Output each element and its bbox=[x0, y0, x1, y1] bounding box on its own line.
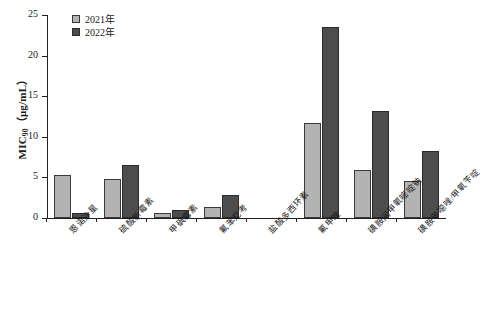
y-tick: 20 bbox=[42, 56, 47, 57]
bar-2022 bbox=[372, 111, 389, 218]
legend-label-2022: 2022年 bbox=[85, 24, 115, 39]
x-tick bbox=[196, 218, 197, 222]
legend: 2021年 2022年 bbox=[72, 12, 115, 38]
y-tick: 10 bbox=[42, 137, 47, 138]
plot-area: 0510152025 恩诺沙星硫酸新霉素甲砜霉素氟苯尼考盐酸多西环素氟甲喹磺胺间… bbox=[47, 15, 446, 218]
x-tick bbox=[96, 218, 97, 222]
y-tick: 15 bbox=[42, 96, 47, 97]
y-tick-label: 5 bbox=[33, 170, 38, 181]
y-tick-label: 20 bbox=[28, 49, 38, 60]
bar-2021 bbox=[54, 175, 71, 218]
x-tick bbox=[346, 218, 347, 222]
y-axis-title-main: MIC bbox=[16, 136, 28, 159]
bar-2021 bbox=[204, 207, 221, 218]
y-tick: 5 bbox=[42, 177, 47, 178]
x-tick bbox=[296, 218, 297, 222]
y-tick-label: 0 bbox=[33, 211, 38, 222]
y-axis-line bbox=[47, 15, 48, 218]
legend-swatch-2021-icon bbox=[72, 15, 80, 23]
legend-item-2022: 2022年 bbox=[72, 25, 115, 38]
y-tick-label: 10 bbox=[28, 130, 38, 141]
bar-2021 bbox=[354, 170, 371, 218]
bar-2021 bbox=[154, 213, 171, 218]
y-axis-title-unit: （μg/mL） bbox=[16, 74, 28, 129]
x-tick bbox=[46, 218, 47, 222]
y-tick-label: 15 bbox=[28, 89, 38, 100]
legend-swatch-2022-icon bbox=[72, 28, 80, 36]
bar-2021 bbox=[104, 179, 121, 218]
x-tick bbox=[246, 218, 247, 222]
x-tick bbox=[146, 218, 147, 222]
y-tick: 25 bbox=[42, 15, 47, 16]
bar-2021 bbox=[304, 123, 321, 218]
bar-2022 bbox=[322, 27, 339, 218]
x-tick bbox=[396, 218, 397, 222]
y-axis-title: MIC90（μg/mL） bbox=[13, 42, 30, 192]
y-tick-label: 25 bbox=[28, 8, 38, 19]
